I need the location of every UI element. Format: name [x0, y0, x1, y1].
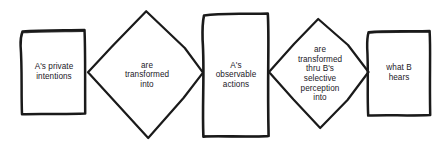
shape-diamond-are-transformed-into [88, 11, 203, 138]
shape-rect-what-b-hears-overdraw [370, 32, 429, 33]
shape-rect-a-observable-actions [202, 14, 268, 137]
diagram-sketch-layer [0, 0, 448, 148]
shape-rect-a-observable-actions-overdraw [205, 136, 268, 137]
diagram-canvas: A's private intentions are transformed i… [0, 0, 448, 148]
shape-rect-what-b-hears [367, 31, 430, 116]
shape-diamond-are-transformed-thru-b-selective-perception-into [269, 19, 369, 128]
shape-rect-a-private-intentions [21, 30, 86, 114]
